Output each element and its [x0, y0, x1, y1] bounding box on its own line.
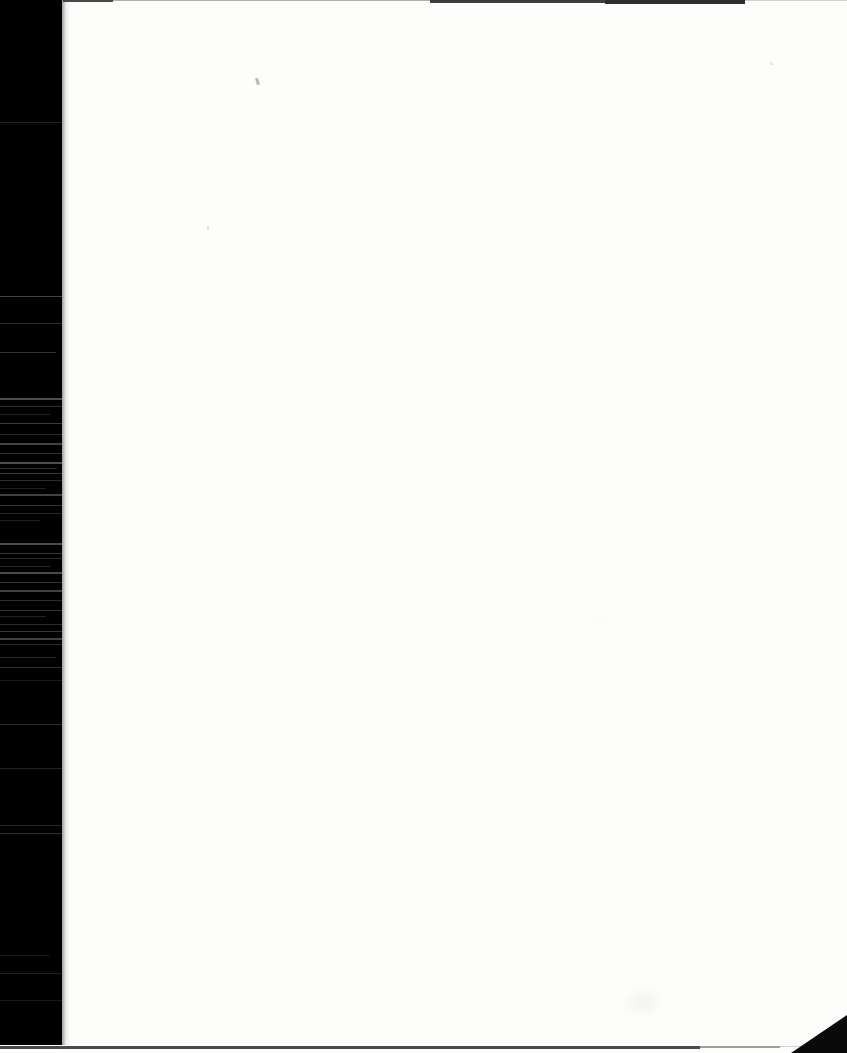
- scan-streak: [0, 955, 50, 956]
- paper-left-edge-shadow: [62, 0, 71, 1045]
- paper-surface: [62, 0, 847, 1053]
- scan-streak: [0, 825, 62, 826]
- scan-streak: [0, 833, 62, 834]
- scan-streak: [0, 352, 56, 353]
- scan-streak: [0, 480, 62, 481]
- scan-streak: [0, 462, 62, 464]
- scan-streak: [0, 680, 62, 681]
- scan-streak: [0, 414, 50, 415]
- scan-streak: [0, 638, 62, 640]
- scan-streak: [0, 644, 62, 645]
- scan-streak: [0, 398, 62, 400]
- scan-streak: [0, 423, 62, 424]
- scan-streak: [0, 443, 62, 445]
- scanned-page: [0, 0, 847, 1053]
- scan-streak: [0, 406, 62, 407]
- scan-streak: [0, 667, 62, 668]
- scan-streak: [0, 520, 40, 521]
- scan-streak: [0, 473, 62, 474]
- scan-streak: [0, 600, 62, 601]
- scan-streak: [0, 566, 50, 567]
- scan-streak: [0, 973, 62, 974]
- scan-streak: [0, 590, 62, 592]
- scan-streak: [0, 558, 62, 559]
- scan-streak: [0, 505, 62, 506]
- scan-streak: [0, 453, 62, 454]
- scan-streak: [0, 572, 62, 574]
- scan-streak: [0, 323, 62, 324]
- scan-streak: [0, 1000, 62, 1001]
- scan-streak: [0, 610, 62, 611]
- scan-streak: [0, 657, 56, 658]
- scan-streak: [0, 724, 62, 725]
- scan-streak: [0, 513, 62, 514]
- scan-streak: [0, 488, 46, 489]
- scan-streak: [0, 122, 62, 123]
- scan-streak: [0, 616, 46, 617]
- scan-streak: [0, 768, 62, 769]
- scan-streak: [0, 631, 62, 632]
- scan-streak: [0, 624, 62, 625]
- scan-streak: [0, 494, 62, 496]
- scan-streak: [0, 434, 62, 435]
- scanner-edge-bar: [0, 0, 62, 1045]
- scan-streak: [0, 296, 62, 297]
- scan-streak: [0, 468, 57, 469]
- scan-streak: [0, 582, 62, 583]
- scan-streak: [0, 543, 62, 545]
- scan-streak: [0, 553, 62, 554]
